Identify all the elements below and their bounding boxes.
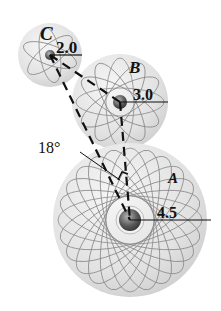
value-b: 3.0 — [133, 86, 153, 103]
label-a: A — [167, 170, 178, 186]
label-b: B — [128, 58, 140, 77]
value-a: 4.5 — [157, 204, 177, 221]
value-c: 2.0 — [56, 38, 77, 57]
gear-a — [53, 143, 211, 297]
label-c: C — [40, 23, 53, 44]
angle-label: 18° — [38, 139, 60, 156]
gear-diagram: C 2.0 B 3.0 A 4.5 18° — [0, 0, 221, 311]
